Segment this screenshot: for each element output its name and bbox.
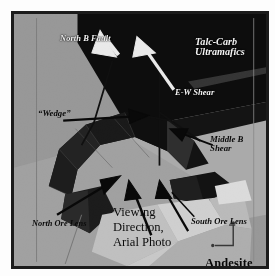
label-north-ore-lens: North Ore Lens xyxy=(32,220,86,229)
label-ew-shear: E-W Shear xyxy=(175,88,214,97)
label-south-ore-lens: South Ore Lens xyxy=(191,217,247,226)
label-viewing-direction: Viewing Direction, Arial Photo xyxy=(113,205,171,250)
figure-root: North B Fault Talc-Carb Ultramafics E-W … xyxy=(0,0,275,276)
label-andesite: Andesite xyxy=(205,257,253,269)
label-talc-carb-ultramafics: Talc-Carb Ultramafics xyxy=(195,37,245,58)
label-north-b-fault: North B Fault xyxy=(60,35,111,44)
diagram-frame: North B Fault Talc-Carb Ultramafics E-W … xyxy=(11,11,269,269)
label-middle-b-shear: Middle B Shear xyxy=(210,135,243,153)
label-wedge: “Wedge” xyxy=(38,109,71,118)
